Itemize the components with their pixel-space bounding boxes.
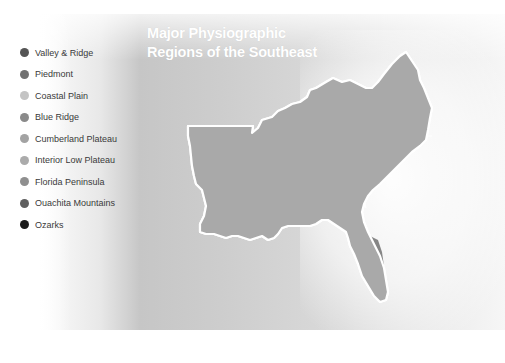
- map-figure: Major Physiographic Regions of the South…: [0, 0, 505, 363]
- southeast-map: [0, 0, 505, 363]
